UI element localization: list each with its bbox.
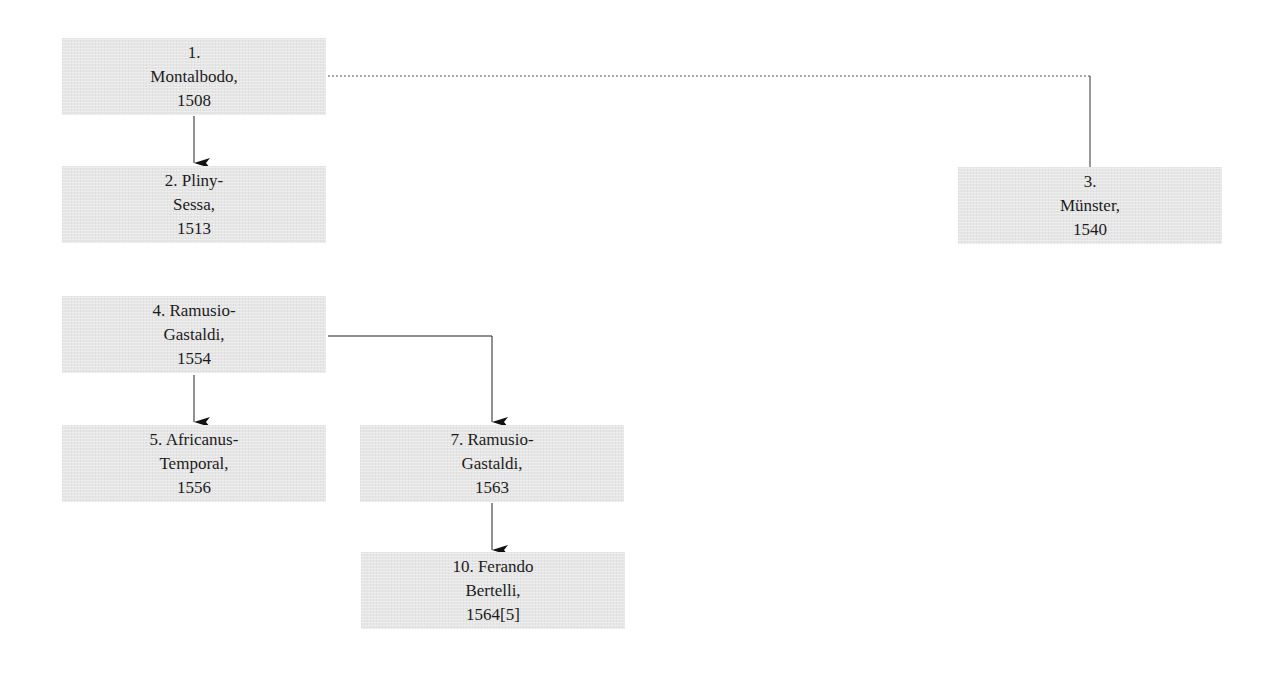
node-5-africanus-temporal: 5. Africanus- Temporal, 1556 [62,425,326,502]
node-2-pliny-sessa: 2. Pliny- Sessa, 1513 [62,166,326,243]
node-line: 4. Ramusio- [152,299,235,323]
node-line: 1. [188,41,201,65]
node-line: 10. Ferando [452,555,533,579]
node-line: Temporal, [159,452,228,476]
node-line: 1513 [177,217,211,241]
node-4-ramusio-gastaldi-1554: 4. Ramusio- Gastaldi, 1554 [62,296,326,373]
node-line: Gastaldi, [462,452,523,476]
node-7-ramusio-gastaldi-1563: 7. Ramusio- Gastaldi, 1563 [360,425,624,502]
node-line: Sessa, [173,193,215,217]
node-3-munster: 3. Münster, 1540 [958,167,1222,244]
node-line: 1554 [177,347,211,371]
node-line: 1508 [177,89,211,113]
node-line: Montalbodo, [150,65,237,89]
node-10-ferando-bertelli: 10. Ferando Bertelli, 1564[5] [361,552,625,629]
node-line: 1540 [1073,218,1107,242]
node-line: 7. Ramusio- [450,428,533,452]
node-line: 1564[5] [466,603,520,627]
node-line: 2. Pliny- [165,169,224,193]
node-line: Gastaldi, [164,323,225,347]
edge-4-to-7 [328,336,492,422]
node-line: 3. [1084,170,1097,194]
node-line: Münster, [1060,194,1120,218]
node-line: 5. Africanus- [150,428,239,452]
node-line: 1556 [177,476,211,500]
node-line: 1563 [475,476,509,500]
node-line: Bertelli, [465,579,520,603]
node-1-montalbodo: 1. Montalbodo, 1508 [62,38,326,115]
